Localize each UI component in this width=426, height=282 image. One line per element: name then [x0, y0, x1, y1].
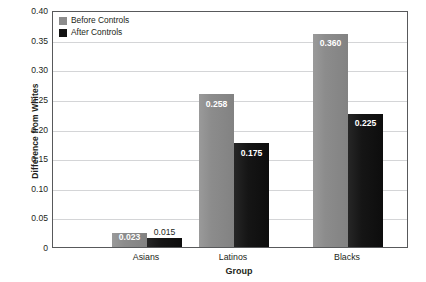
y-tick-label-035: 0.35: [4, 37, 48, 46]
bar-chart: Difference from Whites 0.40 0.35 0.30 0.…: [0, 0, 426, 282]
legend-swatch-after-controls: [59, 29, 67, 37]
y-tick-label-030: 0.30: [4, 66, 48, 75]
y-tick-label-010: 0.10: [4, 185, 48, 194]
x-tick-label-blacks: Blacks: [292, 253, 402, 262]
legend-item-after-controls: After Controls: [59, 27, 129, 38]
y-tick-label-015: 0.15: [4, 155, 48, 164]
legend-swatch-before-controls: [59, 17, 67, 25]
x-tick-label-latinos: Latinos: [178, 253, 288, 262]
bar-value-latinos-after-controls: 0.175: [230, 149, 274, 158]
y-tick-label-025: 0.25: [4, 96, 48, 105]
legend: Before Controls After Controls: [57, 14, 135, 41]
gridline-030: [53, 71, 407, 72]
bar-blacks-before-controls: [313, 34, 348, 247]
bar-asians-after-controls: [147, 238, 182, 247]
bar-value-blacks-before-controls: 0.360: [309, 39, 353, 48]
x-axis-title: Group: [26, 266, 426, 276]
legend-label-before-controls: Before Controls: [71, 16, 129, 24]
bar-value-blacks-after-controls: 0.225: [344, 119, 388, 128]
bar-value-latinos-before-controls: 0.258: [195, 100, 239, 109]
bar-latinos-after-controls: [234, 143, 269, 247]
legend-item-before-controls: Before Controls: [59, 15, 129, 26]
y-tick-label-000: 0: [4, 244, 48, 253]
y-tick-label-020: 0.20: [4, 126, 48, 135]
bar-value-asians-after-controls: 0.015: [143, 228, 187, 237]
bar-latinos-before-controls: [199, 94, 234, 247]
y-tick-label-005: 0.05: [4, 214, 48, 223]
bar-blacks-after-controls: [348, 114, 383, 247]
plot-area: Before Controls After Controls 0.023 0.0…: [52, 11, 408, 248]
y-tick-label-040: 0.40: [4, 7, 48, 16]
legend-label-after-controls: After Controls: [71, 28, 122, 36]
gridline-035: [53, 42, 407, 43]
